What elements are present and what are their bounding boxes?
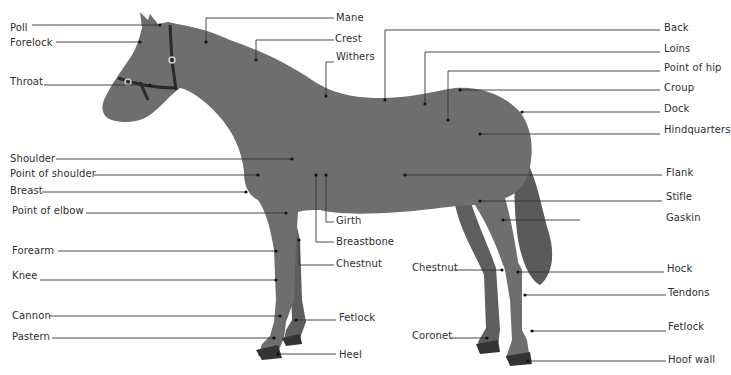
label-breast: Breast [10,185,43,197]
label-tendons: Tendons [668,287,710,299]
horse-anatomy-diagram: Poll Forelock Throat Shoulder Point of s… [0,0,731,375]
label-flank: Flank [666,167,693,179]
label-loins: Loins [664,43,690,55]
label-forelock: Forelock [10,37,53,49]
label-point-of-shoulder: Point of shoulder [10,168,96,180]
label-forearm: Forearm [12,245,54,257]
label-hock: Hock [667,263,692,275]
label-fetlock-fore: Fetlock [339,312,375,324]
label-pastern: Pastern [12,331,50,343]
label-chestnut-fore: Chestnut [336,258,382,270]
label-dock: Dock [664,103,690,115]
label-heel: Heel [339,349,362,361]
label-mane: Mane [336,12,364,24]
label-knee: Knee [12,270,38,282]
label-cannon: Cannon [12,310,51,322]
label-fetlock-hind: Fetlock [668,321,704,333]
horse-body [102,12,531,365]
label-back: Back [664,22,689,34]
label-stifle: Stifle [666,191,692,203]
label-coronet: Coronet [412,330,452,342]
label-girth: Girth [336,215,361,227]
label-crest: Crest [335,33,362,45]
label-withers: Withers [336,51,375,63]
label-shoulder: Shoulder [10,153,55,165]
label-point-of-hip: Point of hip [664,62,722,74]
label-throat: Throat [10,76,43,88]
label-chestnut-hind: Chestnut [412,262,458,274]
label-croup: Croup [664,82,694,94]
label-hindquarters: Hindquarters [664,124,731,136]
label-breastbone: Breastbone [336,236,394,248]
label-gaskin: Gaskin [666,212,701,224]
label-hoof-wall: Hoof wall [668,354,715,366]
label-point-of-elbow: Point of elbow [12,205,84,217]
label-poll: Poll [10,22,28,34]
